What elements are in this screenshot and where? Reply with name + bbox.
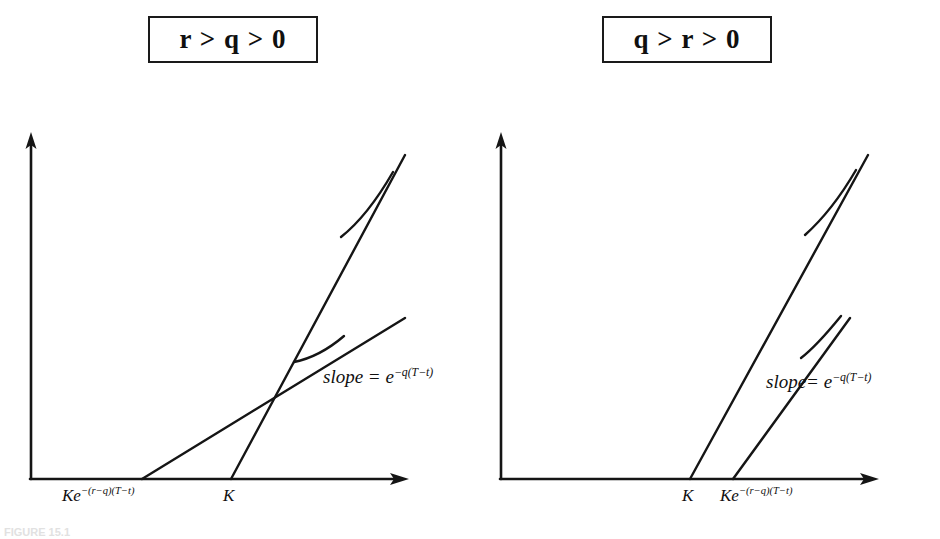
plot-area-left <box>0 0 470 539</box>
slope-annotation-left: slope = e−q(T−t) <box>323 367 433 386</box>
slope-annotation-right-text: slope= e <box>766 371 832 392</box>
slope-annotation-left-text: slope = e <box>323 366 394 387</box>
x-tick-label-left-1-exponent: −(r−q)(T−t) <box>81 485 135 496</box>
figure-caption: FIGURE 15.1 <box>4 526 70 538</box>
plot-area-right <box>470 0 940 539</box>
y-axis-left <box>26 132 37 479</box>
x-tick-label-left-1: Ke−(r−q)(T−t) <box>62 487 134 504</box>
x-tick-label-right-2: Ke−(r−q)(T−t) <box>720 487 792 504</box>
x-tick-label-right-1-base: K <box>682 486 693 505</box>
chart-panel-left: r > q > 0 <box>0 0 470 539</box>
chart-panel-right: q > r > 0 <box>470 0 940 539</box>
x-tick-label-right-1: K <box>682 487 693 504</box>
payoff-line-steep-left <box>231 155 405 479</box>
x-tick-label-left-2-base: K <box>223 486 234 505</box>
y-axis-right <box>496 132 507 479</box>
slope-annotation-right-exponent: −q(T−t) <box>832 371 871 384</box>
x-tick-label-right-2-base: Ke <box>720 486 739 505</box>
x-tick-label-left-1-base: Ke <box>62 486 81 505</box>
figure-canvas: r > q > 0 <box>0 0 940 539</box>
x-axis-left <box>30 473 409 485</box>
x-tick-label-left-2: K <box>223 487 234 504</box>
slope-annotation-left-exponent: −q(T−t) <box>394 366 433 379</box>
payoff-line-shallow-right <box>733 318 850 479</box>
x-tick-label-right-2-exponent: −(r−q)(T−t) <box>739 485 793 496</box>
slope-annotation-right: slope= e−q(T−t) <box>766 372 872 391</box>
